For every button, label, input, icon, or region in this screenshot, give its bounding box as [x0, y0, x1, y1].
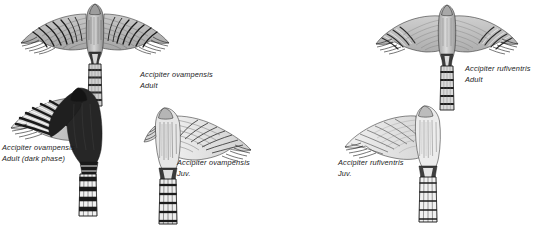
caption-ovampensis-adult: Accipiter ovampensis Adult — [140, 70, 213, 91]
caption-rufiventris-juvenile: Accipiter rufiventris Juv. — [338, 158, 404, 179]
caption-species-name: Accipiter rufiventris — [465, 64, 531, 75]
caption-age-label: Adult — [140, 81, 213, 92]
caption-age-label: Adult (dark phase) — [2, 154, 75, 165]
caption-ovampensis-juvenile: Accipiter ovampensis Juv. — [177, 158, 250, 179]
caption-species-name: Accipiter ovampensis — [177, 158, 250, 169]
caption-age-label: Juv. — [338, 169, 404, 180]
field-guide-plate: Accipiter ovampensis Adult — [0, 0, 549, 226]
rufiventris-adult-illustration — [372, 2, 522, 114]
figure-rufiventris-adult — [372, 2, 522, 114]
caption-age-label: Adult — [465, 75, 531, 86]
caption-species-name: Accipiter rufiventris — [338, 158, 404, 169]
caption-ovampensis-adult-dark: Accipiter ovampensis Adult (dark phase) — [2, 143, 75, 164]
caption-rufiventris-adult: Accipiter rufiventris Adult — [465, 64, 531, 85]
caption-species-name: Accipiter ovampensis — [2, 143, 75, 154]
caption-age-label: Juv. — [177, 169, 250, 180]
caption-species-name: Accipiter ovampensis — [140, 70, 213, 81]
